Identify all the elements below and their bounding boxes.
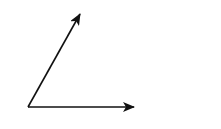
vector-diagram xyxy=(0,0,221,129)
slanted-vector-arrow xyxy=(28,14,80,107)
